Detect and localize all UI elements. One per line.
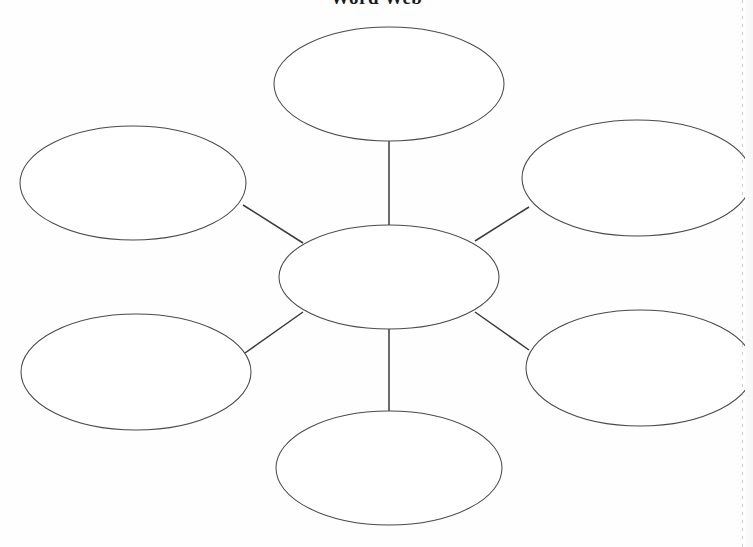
worksheet-page: Word Web [0, 0, 753, 547]
word-web-diagram [0, 0, 753, 547]
node-upper-right[interactable] [522, 120, 752, 236]
scan-edge-shading [745, 0, 753, 547]
node-group [20, 27, 753, 525]
connector-center-to-lower-right [475, 312, 529, 350]
node-top[interactable] [274, 27, 504, 141]
connector-center-to-upper-left [243, 205, 303, 243]
node-lower-left[interactable] [21, 314, 251, 430]
node-bottom[interactable] [276, 411, 502, 525]
node-center[interactable] [279, 225, 499, 329]
connector-center-to-lower-left [245, 312, 303, 353]
scan-edge-artifact [742, 0, 743, 547]
node-lower-right[interactable] [526, 310, 753, 426]
connector-center-to-upper-right [475, 207, 529, 241]
node-upper-left[interactable] [20, 126, 246, 240]
